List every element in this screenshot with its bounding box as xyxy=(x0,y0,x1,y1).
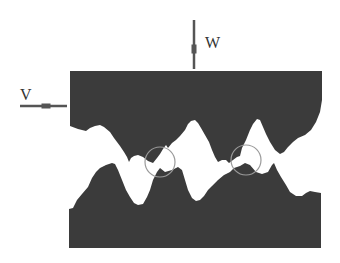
upper-rough-body xyxy=(70,71,322,163)
velocity-arrow-icon xyxy=(20,104,67,109)
load-arrow-icon xyxy=(192,20,197,69)
load-label: W xyxy=(205,34,221,51)
lower-rough-body xyxy=(69,163,321,248)
contact-diagram: W V xyxy=(0,0,340,263)
velocity-label: V xyxy=(20,86,32,103)
